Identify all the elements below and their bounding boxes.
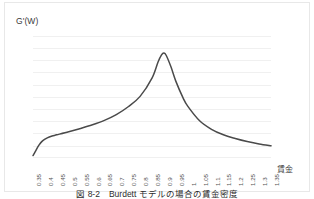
x-tick-label: 0.55 — [83, 174, 90, 186]
x-tick-label: 1 — [190, 183, 197, 186]
x-tick-label: 1.2 — [237, 177, 244, 186]
figure-container: G'(W) 0.350.40.450.50.550.60.650.70.750.… — [0, 0, 314, 199]
x-tick-label: 0.75 — [130, 174, 137, 186]
x-tick-label: 0.35 — [35, 174, 42, 186]
x-tick-label: 0.4 — [47, 177, 54, 186]
x-tick-label: 1.25 — [249, 174, 256, 186]
x-tick-label: 1.05 — [202, 174, 209, 186]
x-axis-ticks: 0.350.40.450.50.550.60.650.70.750.80.850… — [33, 159, 271, 189]
x-axis-label: 賃金 — [277, 163, 293, 174]
x-tick-label: 1.15 — [225, 174, 232, 186]
x-tick-label: 1.35 — [273, 174, 280, 186]
x-tick-label: 1.1 — [214, 177, 221, 186]
y-axis-label: G'(W) — [16, 16, 38, 26]
x-tick-label: 0.95 — [178, 174, 185, 186]
x-tick-label: 0.6 — [95, 177, 102, 186]
x-tick-label: 0.9 — [166, 177, 173, 186]
x-tick-label: 0.7 — [118, 177, 125, 186]
x-tick-label: 1.3 — [261, 177, 268, 186]
density-curve — [33, 36, 271, 158]
x-tick-label: 0.45 — [59, 174, 66, 186]
x-tick-label: 0.85 — [154, 174, 161, 186]
x-tick-label: 0.8 — [142, 177, 149, 186]
plot-area — [33, 36, 271, 158]
figure-caption: 図 8-2 Burdett モデルの場合の賃金密度 — [0, 188, 314, 199]
x-tick-label: 0.5 — [71, 177, 78, 186]
x-tick-label: 0.65 — [106, 174, 113, 186]
